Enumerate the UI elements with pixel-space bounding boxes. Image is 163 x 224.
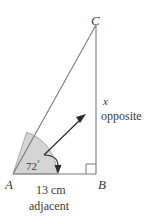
hypotenuse-line-AC (13, 25, 96, 174)
vertex-label-B: B (98, 178, 106, 191)
opposite-side-word-label: opposite (101, 110, 142, 122)
right-angle-marker-icon (86, 164, 96, 174)
adjacent-side-measure-label: 13 cm (36, 184, 66, 196)
angle-value: 72 (26, 160, 37, 172)
opposite-pointer-arrow-icon (44, 114, 86, 155)
vertex-label-A: A (5, 178, 13, 191)
angle-measure-label: 72° (26, 160, 40, 172)
opposite-side-variable-label: x (103, 96, 108, 107)
degree-symbol: ° (37, 159, 40, 167)
vertex-label-C: C (91, 14, 100, 27)
adjacent-side-word-label: adjacent (29, 200, 69, 212)
trigonometry-figure: C A B 72° x opposite 13 cm adjacent (0, 0, 163, 224)
